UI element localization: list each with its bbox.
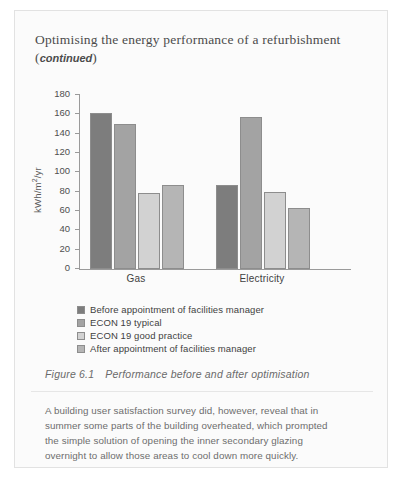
y-axis-label-tail: /yr bbox=[32, 167, 43, 178]
page-title-main: Optimising the energy performance of a r… bbox=[35, 32, 341, 47]
legend-label: ECON 19 typical bbox=[90, 317, 162, 328]
y-tick: 120 bbox=[75, 152, 80, 153]
bar bbox=[240, 117, 262, 269]
y-tick: 0 bbox=[75, 268, 80, 269]
y-tick: 180 bbox=[75, 94, 80, 95]
body-line: overnight to allow those areas to cool d… bbox=[45, 448, 365, 463]
legend-item: After appointment of facilities manager bbox=[77, 342, 367, 355]
x-axis-labels: GasElectricity bbox=[79, 273, 371, 287]
page-title-close-paren: ) bbox=[92, 50, 97, 65]
y-tick-label: 20 bbox=[59, 243, 70, 254]
chart-legend: Before appointment of facilities manager… bbox=[77, 303, 367, 355]
bar bbox=[138, 193, 160, 269]
page-card: Optimising the energy performance of a r… bbox=[14, 10, 388, 468]
y-tick: 40 bbox=[75, 229, 80, 230]
y-axis-label-superscript: 2 bbox=[31, 178, 38, 182]
y-tick-label: 100 bbox=[54, 165, 70, 176]
bar bbox=[216, 185, 238, 269]
body-line: A building user satisfaction survey did,… bbox=[45, 403, 365, 418]
y-axis-label-base: kWh/m bbox=[32, 182, 43, 213]
legend-item: ECON 19 good practice bbox=[77, 329, 367, 342]
legend-swatch bbox=[77, 345, 85, 353]
figure-caption: Figure 6.1Performance before and after o… bbox=[45, 368, 375, 380]
bar-group bbox=[216, 95, 310, 269]
x-axis-label: Gas bbox=[106, 273, 166, 284]
legend-swatch bbox=[77, 306, 85, 314]
y-tick: 100 bbox=[75, 171, 80, 172]
x-axis-line bbox=[79, 269, 351, 270]
y-tick: 140 bbox=[75, 133, 80, 134]
y-tick-label: 140 bbox=[54, 127, 70, 138]
legend-item: ECON 19 typical bbox=[77, 316, 367, 329]
legend-label: ECON 19 good practice bbox=[90, 330, 192, 341]
bar-chart: kWh/m2/yr 020406080100120140160180 GasEl… bbox=[35, 89, 371, 289]
y-tick-label: 80 bbox=[59, 185, 70, 196]
bar-group bbox=[90, 95, 184, 269]
plot-area: 020406080100120140160180 bbox=[79, 95, 371, 270]
y-tick-label: 40 bbox=[59, 223, 70, 234]
divider bbox=[31, 391, 373, 392]
y-tick-label: 180 bbox=[54, 88, 70, 99]
bar bbox=[288, 208, 310, 269]
bar bbox=[264, 192, 286, 269]
y-axis-label: kWh/m2/yr bbox=[31, 145, 43, 235]
x-axis-label: Electricity bbox=[232, 273, 292, 284]
bar bbox=[90, 113, 112, 269]
legend-swatch bbox=[77, 319, 85, 327]
y-tick-label: 0 bbox=[65, 262, 70, 273]
page-title-continued: continued bbox=[40, 52, 93, 64]
body-line: summer some parts of the building overhe… bbox=[45, 418, 365, 433]
y-tick-label: 60 bbox=[59, 204, 70, 215]
bar bbox=[114, 124, 136, 269]
y-tick: 60 bbox=[75, 210, 80, 211]
figure-number: Figure 6.1 bbox=[45, 368, 94, 380]
y-tick-label: 160 bbox=[54, 107, 70, 118]
y-tick: 80 bbox=[75, 191, 80, 192]
legend-label: After appointment of facilities manager bbox=[90, 343, 256, 354]
legend-item: Before appointment of facilities manager bbox=[77, 303, 367, 316]
y-tick: 20 bbox=[75, 249, 80, 250]
body-line: the simple solution of opening the inner… bbox=[45, 433, 365, 448]
y-tick: 160 bbox=[75, 113, 80, 114]
body-paragraph: A building user satisfaction survey did,… bbox=[45, 403, 365, 463]
y-tick-label: 120 bbox=[54, 146, 70, 157]
page-title: Optimising the energy performance of a r… bbox=[35, 31, 365, 67]
figure-caption-text: Performance before and after optimisatio… bbox=[105, 368, 309, 380]
legend-label: Before appointment of facilities manager bbox=[90, 304, 264, 315]
y-axis-line bbox=[79, 95, 80, 270]
legend-swatch bbox=[77, 332, 85, 340]
bar bbox=[162, 185, 184, 269]
